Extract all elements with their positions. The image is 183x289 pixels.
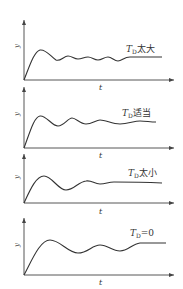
curve-label: TD=0 xyxy=(130,228,154,239)
y-axis-label: y xyxy=(13,174,21,180)
y-axis-label: y xyxy=(13,242,21,248)
chart-panel-td-too-large: y t TD太大 xyxy=(13,20,174,92)
y-axis-label: y xyxy=(13,111,21,117)
y-axis-label: y xyxy=(13,43,21,49)
figure-canvas: y t TD太大 y t TD适当 y t TD太小 y t TD xyxy=(0,0,183,289)
x-axis-label: t xyxy=(99,83,103,92)
chart-panel-td-too-small: y t TD太小 xyxy=(13,154,174,216)
curve-label: TD适当 xyxy=(122,107,151,119)
response-curve xyxy=(24,176,162,203)
response-curve xyxy=(24,50,162,80)
x-axis-label: t xyxy=(99,207,103,216)
curve-label: TD太小 xyxy=(128,167,157,179)
x-axis-label: t xyxy=(99,151,103,160)
response-curve xyxy=(24,240,166,275)
response-curve xyxy=(24,116,156,148)
x-axis-label: t xyxy=(99,278,103,287)
chart-panel-td-appropriate: y t TD适当 xyxy=(13,87,174,160)
chart-panel-td-zero: y t TD=0 xyxy=(13,218,174,287)
curve-label: TD太大 xyxy=(126,43,155,55)
